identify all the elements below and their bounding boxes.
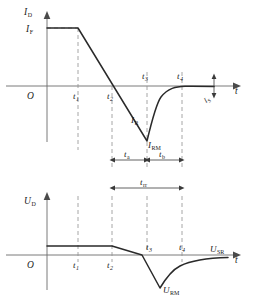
- svg-text:IS: IS: [202, 95, 213, 106]
- label-lower-origin: O: [27, 260, 34, 270]
- label-id-sub: D: [28, 12, 33, 18]
- label-upper-t3-sub: 3: [144, 76, 148, 82]
- interval-trr: trr: [110, 177, 185, 190]
- label-urm-sub: RM: [170, 290, 180, 296]
- reverse-recovery-figure: ID IF t O t1 t2 t3 t4 IR IRM IS ta tb: [0, 0, 255, 298]
- label-lower-t3-sub: 3: [148, 247, 152, 253]
- label-ud-sub: D: [31, 201, 36, 207]
- label-lower-t1-sub: 1: [76, 265, 79, 271]
- label-ir-sub: R: [134, 120, 138, 126]
- svg-text:URM: URM: [163, 285, 180, 296]
- lower-plot: UD t O t1 t2 t3 t4 URM USR: [6, 192, 241, 296]
- svg-text:t2: t2: [107, 91, 113, 102]
- label-trr-sub: rr: [143, 182, 147, 188]
- svg-text:UD: UD: [24, 196, 36, 207]
- svg-text:IF: IF: [25, 24, 34, 35]
- svg-text:trr: trr: [140, 177, 147, 188]
- upper-plot: ID IF t O t1 t2 t3 t4 IR IRM IS: [6, 7, 241, 168]
- label-tb-sub: b: [162, 154, 165, 160]
- label-upper-t4-sub: 4: [180, 76, 183, 82]
- label-if-sub: F: [30, 29, 34, 35]
- lower-voltage-axis: [44, 192, 51, 290]
- svg-text:IR: IR: [130, 115, 138, 126]
- svg-text:t4: t4: [179, 242, 185, 253]
- label-ta-sub: a: [127, 154, 130, 160]
- label-upper-origin: O: [27, 91, 34, 101]
- interval-dimensions: ta tb trr: [110, 149, 185, 190]
- label-lower-t: t: [235, 255, 238, 265]
- svg-text:t3: t3: [146, 242, 152, 253]
- svg-text:tb: tb: [159, 149, 165, 160]
- label-upper-t1-sub: 1: [76, 96, 79, 102]
- label-lower-t4-sub: 4: [182, 247, 185, 253]
- label-lower-t2-sub: 2: [110, 265, 113, 271]
- lower-t-axis: [6, 252, 241, 259]
- label-usr-sub: SR: [217, 249, 224, 255]
- label-upper-t: t: [235, 86, 238, 96]
- upper-current-axis: [44, 11, 51, 142]
- interval-tb: tb: [145, 149, 185, 162]
- label-upper-t2-sub: 2: [110, 96, 113, 102]
- svg-text:ta: ta: [124, 149, 130, 160]
- interval-ta: ta: [110, 149, 150, 162]
- svg-text:USR: USR: [210, 244, 224, 255]
- svg-text:ID: ID: [23, 7, 33, 18]
